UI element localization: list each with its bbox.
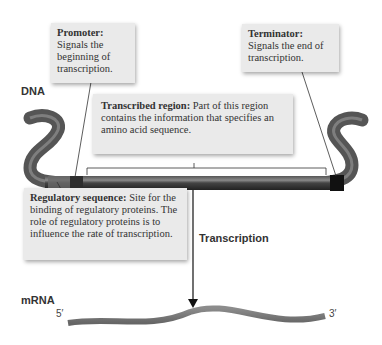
terminator-term: Terminator: <box>248 28 303 39</box>
transcribed-region-bracket <box>87 163 326 175</box>
terminator-desc: Signals the end of transcription. <box>248 40 324 63</box>
five-prime-label: 5′ <box>56 308 63 319</box>
terminator-segment <box>330 175 344 191</box>
three-prime-label: 3′ <box>329 308 336 319</box>
promoter-desc: Signals the beginning of transcription. <box>57 39 113 74</box>
regulatory-sequence-term: Regulatory sequence: <box>30 192 127 203</box>
dna-left-end <box>30 116 70 183</box>
transcription-label: Transcription <box>199 232 269 244</box>
transcribed-region-term: Transcribed region: <box>101 100 190 111</box>
dna-label: DNA <box>21 85 45 97</box>
regulatory-sequence-callout: Regulatory sequence: Site for the bindin… <box>24 188 187 260</box>
promoter-leader <box>75 82 91 177</box>
promoter-callout: Promoter: Signals the beginning of trans… <box>51 23 135 83</box>
terminator-callout: Terminator: Signals the end of transcrip… <box>242 24 339 72</box>
mrna-label: mRNA <box>21 294 55 306</box>
mrna-strand <box>68 308 325 323</box>
arrowhead-icon <box>188 299 198 308</box>
promoter-term: Promoter: <box>57 27 103 38</box>
transcribed-region-callout: Transcribed region: Part of this region … <box>93 94 293 154</box>
dna-right-end <box>310 118 362 183</box>
